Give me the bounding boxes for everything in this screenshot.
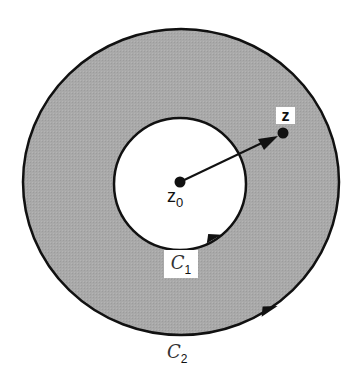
label-c1: C1 (164, 250, 198, 278)
label-c1-sub: 1 (185, 263, 192, 277)
label-c1-main: C (171, 252, 185, 273)
label-c2: C2 (167, 342, 187, 369)
point-z0 (175, 177, 186, 188)
label-c2-sub: 2 (181, 352, 188, 366)
label-z0-main: z (167, 186, 176, 206)
c2-direction-arrow-icon (261, 305, 279, 317)
label-z0: z0 (167, 187, 183, 212)
point-z (278, 128, 289, 139)
label-c2-main: C (167, 341, 181, 362)
label-z: z (276, 107, 295, 124)
label-z0-sub: 0 (176, 195, 183, 210)
label-z-text: z (282, 107, 290, 124)
